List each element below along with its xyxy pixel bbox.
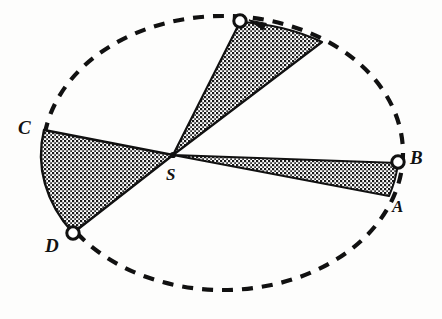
- label-a: A: [392, 198, 403, 215]
- marker-b: [392, 156, 404, 168]
- figure-canvas: [0, 0, 442, 319]
- sector-cd: [41, 130, 173, 233]
- marker-top: [234, 15, 246, 27]
- label-c: C: [18, 118, 31, 137]
- label-b: B: [410, 148, 423, 167]
- label-s: S: [166, 166, 175, 183]
- kepler-second-law-figure: A B C D S: [0, 0, 442, 319]
- focus-point-s: [170, 152, 176, 158]
- sector-top: [173, 22, 322, 155]
- sector-ab: [173, 155, 398, 196]
- marker-d: [67, 227, 79, 239]
- label-d: D: [45, 236, 59, 255]
